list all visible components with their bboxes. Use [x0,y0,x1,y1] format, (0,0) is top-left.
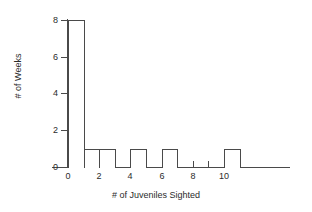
y-tick-label-6: 6 [18,53,58,62]
y-tick-label-2: 2 [18,126,58,135]
x-tick-label-0: 0 [53,172,83,181]
bar-1-2 [84,149,100,168]
bar-4-5 [130,149,147,168]
bar-6-7 [162,149,178,168]
bar-2-3 [99,149,116,168]
y-tick-label-4: 4 [18,89,58,98]
x-tick-label-8: 8 [178,172,208,181]
y-tick-label-8: 8 [18,16,58,25]
x-tick-8 [193,161,194,168]
x-axis-label: # of Juveniles Sighted [0,190,312,200]
x-tick-label-10: 10 [209,172,239,181]
y-axis-label: # of Weeks [13,36,23,116]
x-tick-9 [208,161,209,168]
x-tick-label-6: 6 [147,172,177,181]
x-tick-label-4: 4 [115,172,145,181]
bar-0-1 [68,20,85,168]
y-tick-label-0: 0 [18,163,58,172]
x-tick-label-2: 2 [84,172,114,181]
bar-10-11 [224,149,241,168]
histogram-figure: 02468 0246810 # of Weeks # of Juveniles … [0,0,312,212]
